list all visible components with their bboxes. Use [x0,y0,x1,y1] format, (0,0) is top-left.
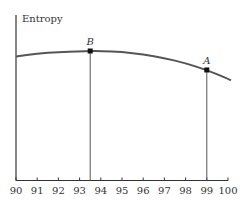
x-tick-label: 91 [31,185,44,196]
x-tick-label: 97 [158,185,171,196]
x-tick-label: 96 [137,185,150,196]
point-b-marker [88,49,93,54]
point-a-marker [204,67,209,72]
x-tick-label: 94 [94,185,107,196]
x-tick-label: 90 [10,185,23,196]
point-b-label: B [86,36,94,47]
x-tick-label: 98 [179,185,192,196]
x-tick-label: 92 [52,185,65,196]
y-axis-title: Entropy [22,13,63,24]
x-tick-label: 99 [200,185,213,196]
x-tick-label: 93 [73,185,86,196]
x-tick-label: 95 [116,185,129,196]
point-a-label: A [202,55,210,66]
entropy-curve [16,51,231,80]
x-tick-label: 100 [218,185,237,196]
entropy-chart: Entropy 90919293949596979899100 B A [0,0,243,203]
